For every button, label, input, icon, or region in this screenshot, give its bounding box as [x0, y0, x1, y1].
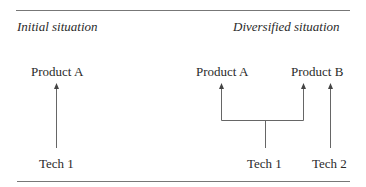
- initial-arrowhead: [54, 83, 59, 89]
- arrowhead-product-b-from-tech2: [328, 83, 333, 89]
- arrowhead-product-a: [219, 83, 224, 89]
- arrowhead-product-b-from-tech1: [301, 83, 306, 89]
- diagram-connectors: [0, 0, 366, 187]
